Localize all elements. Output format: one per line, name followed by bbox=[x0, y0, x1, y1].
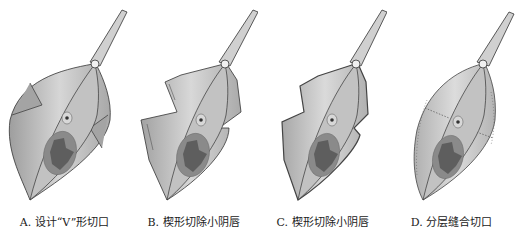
caption-b: B. 楔形切除小阴唇 bbox=[129, 213, 258, 229]
illustration-v-incision bbox=[0, 0, 129, 205]
illustration-wedge-excision-lines bbox=[129, 0, 258, 205]
illustration-wedge-excision bbox=[258, 0, 387, 205]
panel-a: A. 设计“V”形切口 bbox=[0, 0, 129, 237]
illustration-layered-suture bbox=[387, 0, 516, 205]
panel-b: B. 楔形切除小阴唇 bbox=[129, 0, 258, 237]
panel-c: C. 楔形切除小阴唇 bbox=[258, 0, 387, 237]
caption-a: A. 设计“V”形切口 bbox=[0, 213, 129, 229]
panel-d: D. 分层缝合切口 bbox=[387, 0, 516, 237]
caption-c: C. 楔形切除小阴唇 bbox=[258, 213, 387, 229]
caption-d: D. 分层缝合切口 bbox=[387, 213, 516, 229]
